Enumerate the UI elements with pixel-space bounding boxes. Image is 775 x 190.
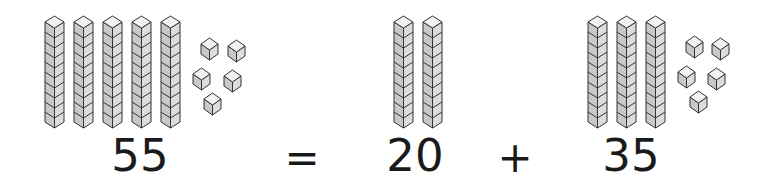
total-number: 55 [111,133,168,178]
unit-cube-icon [200,37,219,65]
ten-rod-icon [616,15,637,133]
ten-rod-icon [422,15,443,133]
unit-cube-icon [711,37,730,65]
unit-cube-icon [707,67,726,95]
unit-cube-icon [689,90,708,118]
ten-rod-icon [587,15,608,133]
ten-rod-icon [44,15,65,133]
unit-cube-icon [677,65,696,93]
plus-sign: + [497,137,532,179]
ten-rod-icon [102,15,123,133]
equals-sign: = [284,137,319,179]
ten-rod-icon [393,15,414,133]
ten-rod-icon [645,15,666,133]
ten-rod-icon [131,15,152,133]
unit-cube-icon [192,67,211,95]
addend-two-number: 35 [602,133,659,178]
ten-rod-icon [160,15,181,133]
unit-cube-icon [203,92,222,120]
unit-cube-icon [223,69,242,97]
addend-one-number: 20 [386,133,443,178]
unit-cube-icon [227,39,246,67]
ten-rod-icon [73,15,94,133]
unit-cube-icon [685,35,704,63]
